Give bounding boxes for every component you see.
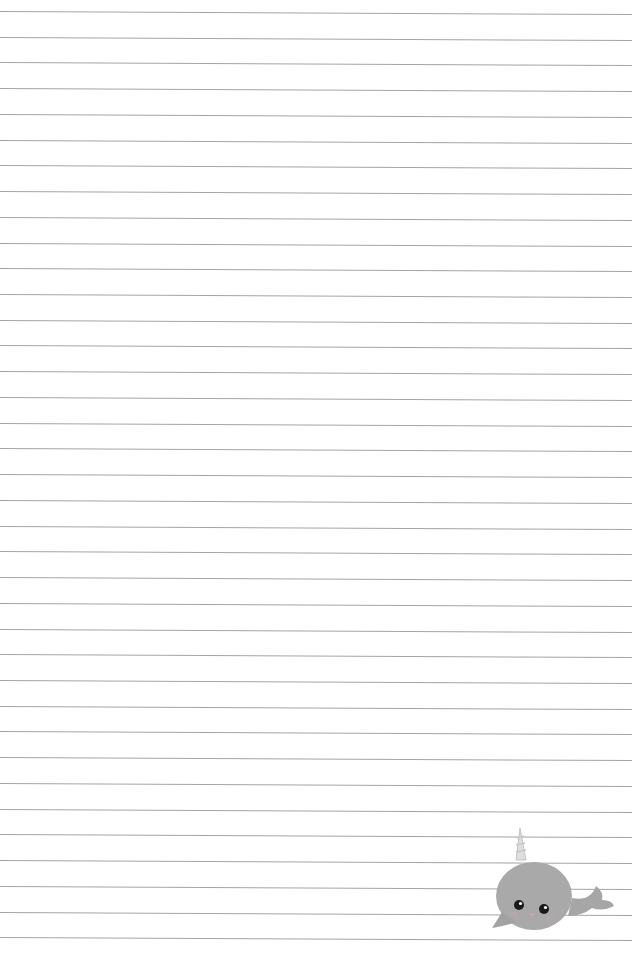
ruled-line — [0, 500, 632, 504]
ruled-line — [0, 629, 632, 633]
ruled-line — [0, 243, 632, 247]
ruled-line — [0, 294, 632, 298]
ruled-line — [0, 757, 632, 761]
ruled-line — [0, 165, 632, 169]
ruled-line — [0, 577, 632, 581]
ruled-line — [0, 809, 632, 813]
ruled-line — [0, 423, 632, 427]
ruled-line — [0, 654, 632, 658]
ruled-line — [0, 526, 632, 530]
ruled-line — [0, 706, 632, 710]
ruled-line — [0, 371, 632, 375]
ruled-line — [0, 217, 632, 221]
ruled-line — [0, 191, 632, 195]
ruled-line — [0, 114, 632, 118]
ruled-line — [0, 11, 632, 15]
ruled-line — [0, 680, 632, 684]
ruled-line — [0, 603, 632, 607]
ruled-line — [0, 474, 632, 478]
ruled-line — [0, 345, 632, 349]
ruled-line — [0, 88, 632, 92]
ruled-line — [0, 551, 632, 555]
ruled-line — [0, 268, 632, 272]
ruled-line — [0, 448, 632, 452]
ruled-line — [0, 731, 632, 735]
narwhal-icon — [492, 826, 620, 938]
ruled-line — [0, 140, 632, 144]
ruled-line — [0, 62, 632, 66]
ruled-line — [0, 320, 632, 324]
ruled-line — [0, 783, 632, 787]
notepaper-page — [0, 0, 635, 958]
ruled-line — [0, 397, 632, 401]
ruled-line — [0, 37, 632, 41]
